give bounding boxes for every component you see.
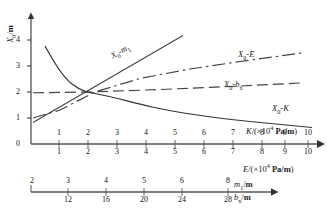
curve-label-x0-e: X0-E	[238, 50, 254, 61]
e-tick-7: 7	[227, 148, 239, 156]
curve-x0-k	[45, 46, 312, 128]
e-tick-4: 4	[140, 148, 152, 156]
m1-tick-3: 3	[62, 177, 74, 185]
e-tick-3: 3	[111, 148, 123, 156]
e-axis-label: E/(×104 Pa/m)	[243, 163, 294, 173]
bx-tick-12: 12	[61, 196, 75, 204]
m1-tick-6: 6	[176, 177, 188, 185]
y-tick-2: 2	[12, 88, 24, 96]
y-axis-ticks	[27, 40, 31, 118]
k-tick-10: 10	[301, 129, 315, 137]
k-tick-6: 6	[198, 129, 210, 137]
k-tick-2: 2	[82, 129, 94, 137]
e-tick-10: 10	[301, 148, 315, 156]
e-tick-5: 5	[169, 148, 181, 156]
m1-axis-label: m1/m	[234, 180, 253, 191]
bx-tick-24: 24	[175, 196, 189, 204]
curve-x0-m1	[33, 36, 183, 123]
k-tick-4: 4	[140, 129, 152, 137]
e-tick-2: 2	[82, 148, 94, 156]
m1-tick-5: 5	[138, 177, 150, 185]
e-tick-8: 8	[256, 148, 268, 156]
e-tick-9: 9	[279, 148, 291, 156]
bx-axis-label: bx/m	[234, 193, 251, 204]
curve-label-x0-bx: X0-bx	[224, 80, 242, 91]
bx-tick-16: 16	[99, 196, 113, 204]
k-tick-8: 8	[256, 129, 268, 137]
curve-label-x0-k: X0-K	[272, 104, 289, 115]
y-tick-4: 4	[12, 36, 24, 44]
bx-tick-28: 28	[221, 196, 235, 204]
bx-tick-20: 20	[137, 196, 151, 204]
m1-tick-2: 2	[26, 177, 38, 185]
m1-tick-8: 8	[222, 177, 234, 185]
origin-label: 0	[12, 140, 24, 148]
k-tick-3: 3	[111, 129, 123, 137]
e-tick-6: 6	[198, 148, 210, 156]
k-tick-1: 1	[53, 129, 65, 137]
e-tick-1: 1	[53, 148, 65, 156]
k-tick-5: 5	[169, 129, 181, 137]
m1-tick-4: 4	[100, 177, 112, 185]
k-tick-7: 7	[227, 129, 239, 137]
y-tick-1: 1	[12, 114, 24, 122]
k-tick-9: 9	[279, 129, 291, 137]
chart-figure: X0/m 1 2 3 4 0 K/(×104 Pa/m) E/(×104 Pa/…	[0, 0, 333, 220]
y-tick-3: 3	[12, 62, 24, 70]
